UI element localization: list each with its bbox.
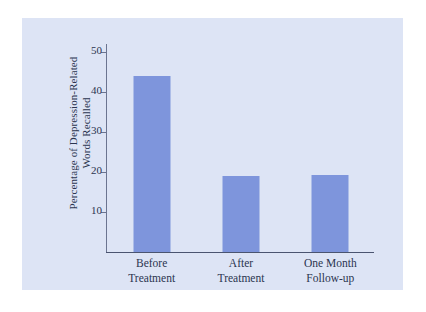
chart-panel: Percentage of Depression-Related Words R… — [22, 18, 403, 290]
bar-slot — [286, 26, 375, 252]
bar — [222, 176, 259, 252]
bar — [133, 76, 170, 252]
y-tick-label: 20 — [91, 164, 102, 176]
bar-series — [107, 26, 375, 252]
y-tick-label: 10 — [91, 204, 102, 216]
y-tick-label: 30 — [91, 124, 102, 136]
bar-slot — [196, 26, 285, 252]
category-label-line: Treatment — [191, 271, 291, 286]
bar — [312, 175, 349, 252]
x-axis-line — [106, 252, 374, 253]
category-label-line: Follow-up — [280, 271, 380, 286]
plot-area: 1020304050 BeforeTreatmentAfterTreatment… — [106, 26, 398, 290]
category-label-line: One Month — [280, 256, 380, 271]
x-axis-category-labels: BeforeTreatmentAfterTreatmentOne MonthFo… — [107, 256, 375, 298]
y-tick-label: 40 — [91, 84, 102, 96]
category-label: One MonthFollow-up — [280, 256, 380, 286]
category-label-line: After — [191, 256, 291, 271]
category-label: AfterTreatment — [191, 256, 291, 286]
bar-slot — [107, 26, 196, 252]
category-label-line: Treatment — [102, 271, 202, 286]
y-tick-label: 50 — [91, 44, 102, 56]
y-axis-title-line-1: Percentage of Depression-Related — [67, 57, 80, 210]
category-label-line: Before — [102, 256, 202, 271]
category-label: BeforeTreatment — [102, 256, 202, 286]
